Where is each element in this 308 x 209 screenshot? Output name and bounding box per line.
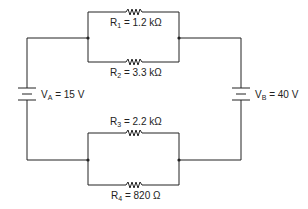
- junction-dots: [86, 36, 180, 161]
- battery-va-icon: [18, 88, 36, 100]
- resistor-r2-icon: [126, 59, 142, 65]
- label-vb: VB = 40 V: [255, 89, 298, 104]
- label-r1: R1 = 1.2 kΩ: [110, 17, 162, 32]
- battery-vb-icon: [232, 88, 250, 100]
- label-r2: R2 = 3.3 kΩ: [110, 67, 162, 82]
- label-va: VA = 15 V: [41, 89, 84, 104]
- resistor-r4-icon: [126, 182, 142, 188]
- label-r4: R4 = 820 Ω: [111, 190, 160, 205]
- right-branch: [179, 38, 250, 160]
- bottom-parallel-block: [88, 130, 179, 188]
- resistor-r1-icon: [126, 9, 142, 15]
- label-r3: R3 = 2.2 kΩ: [110, 116, 162, 131]
